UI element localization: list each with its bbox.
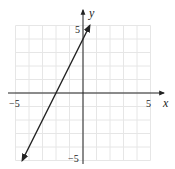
y-min-tick: −5 <box>68 153 79 164</box>
x-max-tick: 5 <box>146 98 151 109</box>
x-axis-label: x <box>162 96 169 110</box>
y-max-tick: 5 <box>75 24 80 35</box>
coordinate-plane: −5 5 5 −5 x y <box>0 0 175 169</box>
x-min-tick: −5 <box>9 98 20 109</box>
y-axis-label: y <box>88 6 95 20</box>
